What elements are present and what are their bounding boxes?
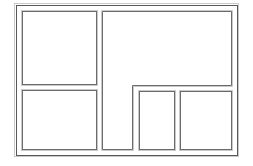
panel-bottom-left-border xyxy=(23,91,97,150)
panel-top-left[interactable] xyxy=(22,11,98,86)
panel-bottom-middle[interactable] xyxy=(139,91,176,151)
panel-bottom-right[interactable] xyxy=(180,91,233,151)
layout-wireframe-diagram xyxy=(0,0,253,166)
wireframe-canvas xyxy=(0,0,253,166)
panel-bottom-left[interactable] xyxy=(22,90,98,151)
panel-bottom-right-border xyxy=(181,92,232,150)
panel-bottom-middle-border xyxy=(140,92,175,150)
panel-top-left-border xyxy=(23,12,97,85)
